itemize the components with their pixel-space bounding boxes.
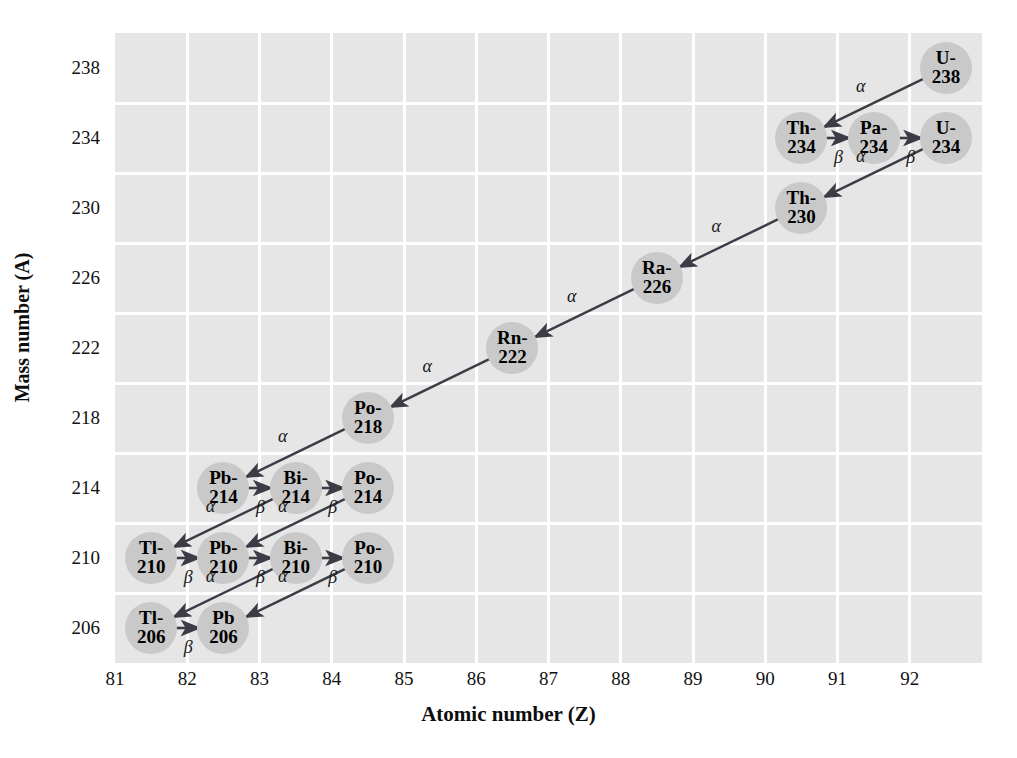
y-axis-tick-label: 226 <box>40 267 100 289</box>
nuclide-mass-number: 206 <box>137 628 166 647</box>
decay-mode-label: α <box>567 286 576 307</box>
nuclide-mass-number: 206 <box>209 628 238 647</box>
nuclide-mass-number: 218 <box>354 418 383 437</box>
decay-mode-label: β <box>328 567 337 588</box>
y-axis-tick-label: 222 <box>40 337 100 359</box>
nuclide-node[interactable]: Tl-206 <box>125 602 177 654</box>
decay-mode-label: α <box>711 216 720 237</box>
decay-mode-label: α <box>856 76 865 97</box>
nuclide-mass-number: 238 <box>932 68 961 87</box>
decay-mode-label: α <box>278 426 287 447</box>
decay-mode-label: β <box>184 567 193 588</box>
x-axis-tick-label: 85 <box>368 668 440 690</box>
y-axis-tick-label: 218 <box>40 407 100 429</box>
decay-mode-label: β <box>256 497 265 518</box>
nuclide-mass-number: 222 <box>498 348 527 367</box>
x-axis-tick-label: 92 <box>874 668 946 690</box>
decay-mode-label: β <box>256 567 265 588</box>
nuclide-node[interactable]: Th-234 <box>775 112 827 164</box>
decay-mode-label: α <box>856 146 865 167</box>
x-axis-tick-label: 84 <box>296 668 368 690</box>
decay-mode-label: α <box>422 356 431 377</box>
y-axis-tick-label: 214 <box>40 477 100 499</box>
y-axis-tick-label: 234 <box>40 127 100 149</box>
plot-area: U-238Th-234Pa-234U-234Th-230Ra-226Rn-222… <box>115 33 982 663</box>
x-axis-tick-label: 87 <box>513 668 585 690</box>
nuclide-mass-number: 230 <box>787 208 816 227</box>
decay-mode-label: α <box>278 566 287 587</box>
decay-mode-label: α <box>206 566 215 587</box>
nuclide-mass-number: 210 <box>354 558 383 577</box>
x-axis-title: Atomic number (Z) <box>0 702 1017 727</box>
y-axis-tick-label: 238 <box>40 57 100 79</box>
x-axis-tick-label: 82 <box>151 668 223 690</box>
nuclide-node[interactable]: Po-218 <box>342 392 394 444</box>
x-axis-tick-label: 81 <box>79 668 151 690</box>
decay-arrow <box>390 359 490 408</box>
decay-arrow <box>534 289 634 338</box>
decay-mode-label: β <box>184 637 193 658</box>
nuclide-mass-number: 226 <box>643 278 672 297</box>
nuclide-node[interactable]: Pb206 <box>197 602 249 654</box>
nuclide-mass-number: 234 <box>932 138 961 157</box>
x-axis-tick-label: 91 <box>802 668 874 690</box>
nuclide-node[interactable]: Rn-222 <box>486 322 538 374</box>
nuclide-node[interactable]: Po-214 <box>342 462 394 514</box>
y-axis-title: Mass number (A) <box>11 218 34 438</box>
decay-mode-label: β <box>834 147 843 168</box>
decay-mode-label: α <box>206 496 215 517</box>
y-axis-tick-label: 230 <box>40 197 100 219</box>
x-axis-tick-label: 90 <box>729 668 801 690</box>
nuclide-node[interactable]: Tl-210 <box>125 532 177 584</box>
y-axis-tick-label: 206 <box>40 617 100 639</box>
decay-arrow <box>679 219 779 268</box>
nuclide-node[interactable]: U-238 <box>920 42 972 94</box>
x-axis-tick-label: 88 <box>585 668 657 690</box>
nuclide-node[interactable]: U-234 <box>920 112 972 164</box>
decay-mode-label: β <box>906 147 915 168</box>
nuclide-mass-number: 214 <box>354 488 383 507</box>
x-axis-tick-label: 86 <box>440 668 512 690</box>
decay-series-figure: 238234230226222218214210206 Mass number … <box>0 0 1017 758</box>
y-axis-tick-label: 210 <box>40 547 100 569</box>
decay-mode-label: β <box>328 497 337 518</box>
x-axis-tick-label: 89 <box>657 668 729 690</box>
nuclide-node[interactable]: Th-230 <box>775 182 827 234</box>
nuclide-mass-number: 210 <box>137 558 166 577</box>
nuclide-mass-number: 234 <box>787 138 816 157</box>
decay-mode-label: α <box>278 496 287 517</box>
nuclide-node[interactable]: Ra-226 <box>631 252 683 304</box>
y-axis-tick-labels: 238234230226222218214210206 <box>22 0 100 758</box>
nuclide-node[interactable]: Po-210 <box>342 532 394 584</box>
x-axis-tick-label: 83 <box>224 668 296 690</box>
